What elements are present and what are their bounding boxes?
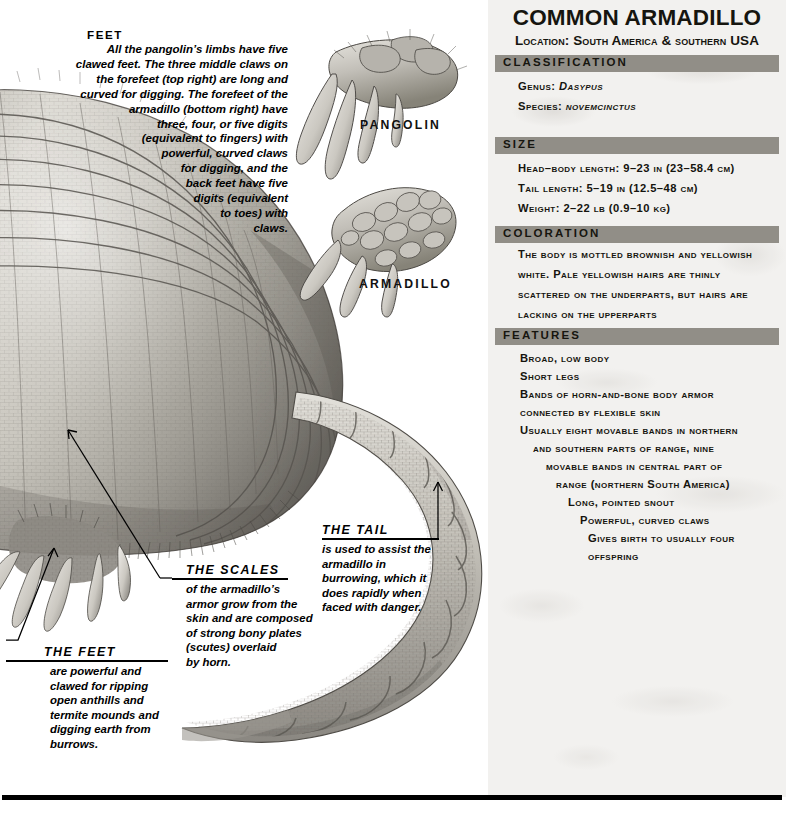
feet-note-line: clawed feet. The three middle claws on — [44, 57, 288, 72]
feet-note-line: claws. — [44, 221, 288, 236]
feature-line: offspring — [588, 550, 786, 562]
feature-line: Long, pointed snout — [568, 496, 786, 508]
section-header-size: SIZE — [495, 137, 779, 154]
feet-note-heading: FEET — [87, 28, 123, 41]
feet-note-line: to toes) with — [44, 206, 288, 221]
feature-line: connected by flexible skin — [520, 406, 786, 418]
callout-line: armor grow from the — [186, 597, 316, 612]
pangolin-foot-illustration — [296, 29, 467, 179]
feet-note-line: armadillo (bottom right) have — [44, 102, 288, 117]
feature-line: and southern parts of range, nine — [533, 442, 786, 454]
encyclopedia-page: FEET All the pangolin’s limbs have five … — [0, 0, 786, 819]
callout-line: burrows. — [50, 737, 185, 752]
feature-line: Bands of horn-and-bone body armor — [520, 388, 786, 400]
callout-line: burrowing, which it — [322, 571, 452, 586]
feet-note-line: powerful, curved claws — [44, 146, 288, 161]
feature-line: Gives birth to usually four — [588, 532, 786, 544]
callout-line: open anthills and — [50, 693, 185, 708]
feet-note-line: digits (equivalent — [44, 191, 288, 206]
scales-callout-heading: THE SCALES — [186, 563, 279, 577]
tail-callout-heading: THE TAIL — [322, 523, 389, 537]
section-body-coloration: The body is mottled brownish and yellowi… — [488, 248, 786, 320]
coloration-line: white. Pale yellowish hairs are thinly — [518, 268, 786, 280]
size-head-body: Head–body length: 9–23 in (23–58.4 cm) — [518, 162, 786, 174]
feature-line: Powerful, curved claws — [580, 514, 786, 526]
callout-line: of strong bony plates — [186, 626, 316, 641]
section-label: COLORATION — [503, 227, 600, 239]
coloration-line: scattered on the underparts, but hairs a… — [518, 288, 786, 300]
callout-line: faced with danger. — [322, 600, 452, 615]
classification-genus: Genus: Dasypus — [518, 80, 786, 92]
feet-note-line: the forefeet (top right) are long and — [44, 72, 288, 87]
callout-line: skin and are composed — [186, 611, 316, 626]
scales-callout-body: of the armadillo’s armor grow from the s… — [186, 582, 316, 670]
callout-line: by horn. — [186, 655, 316, 670]
feature-line: Broad, low body — [520, 352, 786, 364]
section-label: SIZE — [503, 138, 537, 150]
section-label: FEATURES — [503, 329, 581, 341]
coloration-line: The body is mottled brownish and yellowi… — [518, 248, 786, 260]
section-body-classification: Genus: Dasypus Species: novemcinctus — [488, 80, 786, 112]
tail-callout-rule — [322, 538, 439, 540]
armadillo-label: ARMADILLO — [359, 277, 452, 291]
tail-callout-body: is used to assist the armadillo in burro… — [322, 542, 452, 615]
feet-note-line: three, four, or five digits — [44, 117, 288, 132]
feature-line: Usually eight movable bands in northern — [520, 424, 786, 436]
feature-line: movable bands in central part of — [546, 460, 786, 472]
coloration-line: lacking on the upperparts — [518, 308, 786, 320]
callout-line: armadillo in — [322, 557, 452, 572]
section-header-coloration: COLORATION — [495, 226, 779, 243]
section-body-size: Head–body length: 9–23 in (23–58.4 cm) T… — [488, 162, 786, 214]
feet-callout-rule — [6, 660, 168, 662]
location-subtitle: Location: South America & southern USA — [488, 33, 786, 48]
feature-line: Short legs — [520, 370, 786, 382]
section-header-classification: CLASSIFICATION — [495, 55, 779, 72]
section-body-features: Broad, low body Short legs Bands of horn… — [488, 352, 786, 562]
feet-note-line: (equivalent to fingers) with — [44, 131, 288, 146]
feet-note-line: back feet have five — [44, 176, 288, 191]
size-weight: Weight: 2–22 lb (0.9–10 kg) — [518, 202, 786, 214]
species-info-panel: COMMON ARMADILLO Location: South America… — [488, 0, 786, 797]
callout-line: termite mounds and — [50, 708, 185, 723]
page-title: COMMON ARMADILLO — [488, 6, 786, 30]
callout-line: of the armadillo’s — [186, 582, 316, 597]
illustration-area: FEET All the pangolin’s limbs have five … — [0, 0, 490, 797]
callout-line: does rapidly when — [322, 586, 452, 601]
section-label: CLASSIFICATION — [503, 56, 628, 68]
genus-text: Genus: Dasypus — [518, 80, 603, 92]
classification-species: Species: novemcinctus — [518, 100, 786, 112]
feet-note-body: All the pangolin’s limbs have five clawe… — [44, 42, 288, 236]
feet-note-line: curved for digging. The forefeet of the — [44, 87, 288, 102]
callout-line: are powerful and — [50, 664, 185, 679]
bottom-rule — [2, 795, 782, 800]
scales-callout-rule — [172, 578, 288, 580]
callout-line: is used to assist the — [322, 542, 452, 557]
feature-line: range (northern South America) — [556, 478, 786, 490]
callout-line: (scutes) overlaid — [186, 640, 316, 655]
feet-callout-body: are powerful and clawed for ripping open… — [50, 664, 185, 752]
size-tail: Tail length: 5–19 in (12.5–48 cm) — [518, 182, 786, 194]
species-text: Species: novemcinctus — [518, 100, 636, 112]
callout-line: clawed for ripping — [50, 679, 185, 694]
callout-line: digging earth from — [50, 722, 185, 737]
feet-note-line: for digging, and the — [44, 161, 288, 176]
pangolin-label: PANGOLIN — [360, 118, 441, 132]
section-header-features: FEATURES — [495, 328, 779, 345]
feet-note-line: All the pangolin’s limbs have five — [44, 42, 288, 57]
feet-callout-heading: THE FEET — [44, 645, 116, 659]
